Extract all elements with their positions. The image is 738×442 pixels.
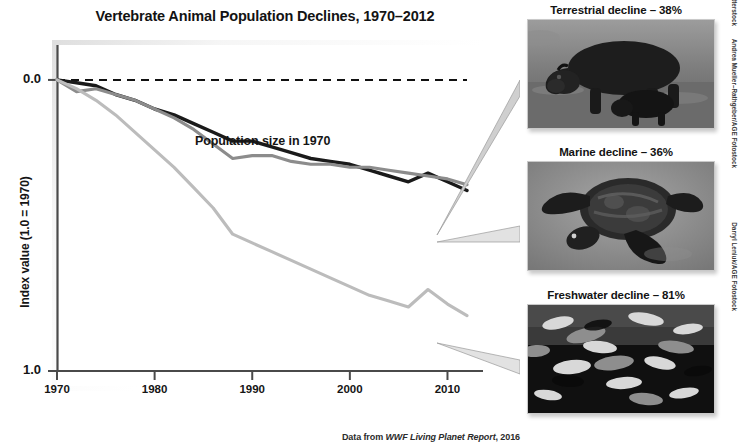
chart-container: Index value (1.0 = 1970) 197019801990200… [0,30,520,430]
panel-caption-freshwater: Freshwater decline – 81% [518,289,714,301]
fish-school-photo [527,304,715,414]
source-note: Data from WWF Living Planet Report, 2016 [248,432,520,442]
x-tick-label-1970: 1970 [35,383,79,395]
x-tick-label-1980: 1980 [133,383,177,395]
photo-credit-freshwater: Darryl Leniuk/AGE Fotostock [731,222,738,311]
y-tick-label-0: 1.0 [1,362,41,377]
line-chart-svg [0,30,520,430]
source-title: WWF Living Planet Report [385,432,495,442]
photo-credit-terrestrial: Stephen Raato/Shutterstock [731,0,738,26]
x-tick-label-2000: 2000 [328,383,372,395]
hippo-photo [527,19,715,129]
sea-turtle-photo-art [528,162,714,270]
hippo-photo-art [528,20,714,128]
baseline-annotation: Population size in 1970 [195,134,330,148]
source-suffix: , 2016 [496,432,520,442]
panel-caption-marine: Marine decline – 36% [518,146,714,158]
panel-terrestrial: Terrestrial decline – 38% [518,4,733,129]
credit-wrap-freshwater: Darryl Leniuk/AGE Fotostock [723,307,733,407]
y-tick-label-1: 0.0 [1,71,41,86]
fish-school-photo-art [528,305,714,413]
x-tick-label-1990: 1990 [230,383,274,395]
sea-turtle-photo [527,161,715,271]
y-axis-ticks [48,80,57,371]
photo-credit-marine: Andrea Mueller–Rathgeber/AGE Fotostock [731,39,738,168]
x-tick-label-2010: 2010 [425,383,469,395]
panel-freshwater: Freshwater decline – 81% [518,289,733,414]
panel-caption-terrestrial: Terrestrial decline – 38% [518,4,714,16]
y-axis-title: Index value (1.0 = 1970) [18,147,32,337]
source-prefix: Data from [342,432,386,442]
page-title: Vertebrate Animal Population Declines, 1… [40,8,490,24]
panel-marine: Marine decline – 36% [518,146,733,271]
